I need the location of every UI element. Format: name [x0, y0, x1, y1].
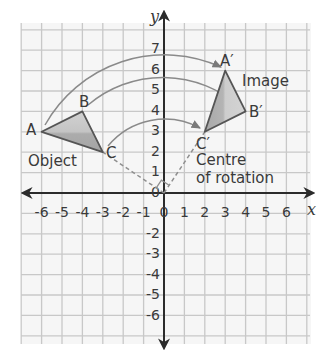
svg-text:6: 6	[151, 61, 160, 77]
svg-text:-4: -4	[146, 266, 160, 282]
svg-text:4: 4	[151, 102, 160, 118]
svg-text:-6: -6	[146, 307, 160, 323]
svg-text:3: 3	[151, 122, 160, 138]
svg-text:4: 4	[241, 204, 250, 220]
svg-text:7: 7	[151, 40, 160, 56]
svg-text:0: 0	[151, 184, 160, 200]
svg-text:2: 2	[200, 204, 209, 220]
svg-text:-1: -1	[137, 204, 151, 220]
label-b: B	[79, 93, 89, 111]
svg-text:-2: -2	[146, 225, 160, 241]
svg-text:-3: -3	[146, 245, 160, 261]
image-label: Image	[242, 72, 289, 90]
label-a: A	[26, 121, 37, 139]
x-axis-label: x	[307, 200, 316, 219]
label-b-prime: B′	[249, 103, 263, 121]
svg-text:-3: -3	[96, 204, 110, 220]
label-a-prime: A′	[220, 52, 234, 70]
centre-label-line2: of rotation	[196, 169, 274, 187]
svg-text:-5: -5	[55, 204, 69, 220]
svg-text:5: 5	[151, 81, 160, 97]
y-axis-label: y	[149, 7, 160, 26]
label-c: C	[106, 144, 116, 162]
centre-label-line1: Centre	[196, 151, 246, 169]
svg-text:3: 3	[221, 204, 230, 220]
svg-text:6: 6	[282, 204, 291, 220]
svg-text:1: 1	[151, 163, 160, 179]
svg-text:1: 1	[180, 204, 189, 220]
svg-text:-4: -4	[75, 204, 89, 220]
svg-text:2: 2	[151, 143, 160, 159]
svg-text:0: 0	[160, 204, 169, 220]
object-label: Object	[28, 152, 77, 170]
svg-text:-6: -6	[35, 204, 49, 220]
svg-text:-2: -2	[116, 204, 130, 220]
svg-text:-5: -5	[146, 286, 160, 302]
svg-text:5: 5	[262, 204, 271, 220]
rotation-diagram: y x -6 -5 -4 -3 -2 -1 0 1 2 3 4 5 6 7 6 …	[0, 0, 325, 356]
